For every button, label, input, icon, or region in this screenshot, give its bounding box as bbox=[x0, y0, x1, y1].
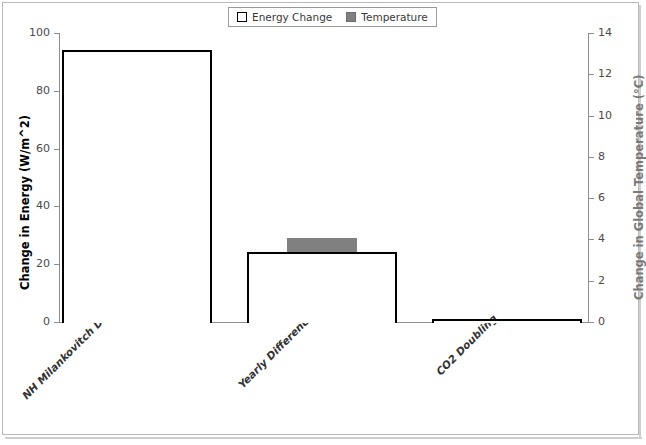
y-axis-right-tick-10 bbox=[589, 116, 594, 117]
y-axis-right-ticklabel-8: 8 bbox=[598, 151, 605, 162]
y-axis-right-ticklabel-6: 6 bbox=[598, 192, 605, 203]
y-axis-left-line bbox=[59, 33, 60, 323]
y-axis-left-tick-80 bbox=[54, 91, 59, 92]
legend-swatch-temperature-icon bbox=[346, 12, 356, 22]
figure-frame-shadow-bottom bbox=[5, 437, 642, 439]
y-axis-right-ticklabel-14: 14 bbox=[598, 27, 612, 38]
y-axis-left-tick-60 bbox=[54, 149, 59, 150]
y-axis-left-title: Change in Energy (W/m^2) bbox=[20, 115, 32, 290]
chart-legend: Energy Change Temperature bbox=[228, 7, 437, 27]
legend-item-temperature: Temperature bbox=[346, 12, 428, 23]
y-axis-right-tick-12 bbox=[589, 74, 594, 75]
y-axis-right-ticklabel-4: 4 bbox=[598, 233, 605, 244]
legend-item-energy-change: Energy Change bbox=[237, 12, 332, 23]
y-axis-left-ticklabel-80: 80 bbox=[18, 85, 50, 96]
y-axis-right-tick-0 bbox=[589, 322, 594, 323]
y-axis-right-tick-14 bbox=[589, 33, 594, 34]
y-axis-right-tick-4 bbox=[589, 239, 594, 240]
y-axis-right-tick-2 bbox=[589, 281, 594, 282]
legend-swatch-energy-change-icon bbox=[237, 12, 247, 22]
y-axis-left-tick-100 bbox=[54, 33, 59, 34]
y-axis-left-ticklabel-0: 0 bbox=[18, 316, 50, 327]
bar-energy-change-co2-doubling bbox=[432, 319, 582, 323]
bar-energy-change-nh-milankovitch-difference bbox=[62, 50, 212, 323]
legend-label-energy-change: Energy Change bbox=[252, 12, 332, 23]
y-axis-left-tick-40 bbox=[54, 206, 59, 207]
y-axis-right-line bbox=[588, 33, 589, 323]
legend-label-temperature: Temperature bbox=[361, 12, 428, 23]
figure-screenshot: Energy Change Temperature 0 20 40 60 80 … bbox=[0, 0, 646, 445]
y-axis-left-ticklabel-100: 100 bbox=[18, 27, 50, 38]
y-axis-right-ticklabel-12: 12 bbox=[598, 68, 612, 79]
y-axis-right-ticklabel-10: 10 bbox=[598, 110, 612, 121]
y-axis-left-tick-0 bbox=[54, 322, 59, 323]
y-axis-right-tick-8 bbox=[589, 157, 594, 158]
y-axis-right-title: Change in Global Temperature (°C) bbox=[634, 75, 646, 300]
y-axis-right-ticklabel-2: 2 bbox=[598, 275, 605, 286]
y-axis-right-ticklabel-0: 0 bbox=[598, 316, 605, 327]
bar-energy-change-yearly-difference-total bbox=[247, 252, 397, 323]
y-axis-right-tick-6 bbox=[589, 198, 594, 199]
y-axis-left-tick-20 bbox=[54, 264, 59, 265]
